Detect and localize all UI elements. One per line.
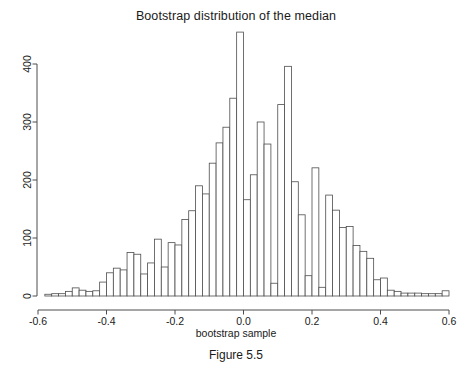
histogram-bar	[339, 228, 346, 296]
histogram-bar	[257, 122, 264, 296]
histogram-bar	[59, 294, 66, 296]
x-tick-label: 0.0	[236, 315, 251, 327]
histogram-bar	[428, 294, 435, 296]
histogram-bar	[72, 288, 79, 296]
histogram-bar	[202, 194, 209, 296]
y-tick-label: 100	[21, 229, 33, 247]
histogram-bar	[326, 195, 333, 296]
histogram-bar	[353, 246, 360, 296]
histogram-bar	[442, 291, 449, 296]
histogram-bar	[271, 283, 278, 296]
x-tick-label: -0.2	[166, 315, 184, 327]
histogram-bar	[52, 294, 59, 296]
histogram-bar	[45, 294, 52, 296]
histogram-bar	[65, 291, 72, 296]
histogram-bar	[305, 276, 312, 296]
histogram-bar	[230, 98, 237, 296]
y-tick-label: 0	[21, 293, 33, 299]
histogram-bar	[312, 168, 319, 296]
histogram-bar	[196, 186, 203, 296]
histogram-bar	[394, 291, 401, 296]
histogram-bar	[189, 211, 196, 296]
histogram-bar	[141, 274, 148, 296]
histogram-bar	[216, 143, 223, 296]
y-tick-label: 400	[21, 55, 33, 73]
histogram-bar	[360, 251, 367, 296]
histogram-bar	[319, 287, 326, 296]
histogram-bar	[244, 200, 251, 296]
histogram-bar	[175, 245, 182, 296]
histogram-bar	[168, 243, 175, 296]
histogram-bar	[86, 291, 93, 296]
histogram-bar	[367, 258, 374, 296]
histogram-bar	[298, 215, 305, 296]
histogram-bar	[237, 32, 244, 296]
histogram-bar	[374, 280, 381, 296]
y-tick-label: 200	[21, 171, 33, 189]
histogram-bar	[333, 210, 340, 296]
histogram-bar	[148, 263, 155, 296]
y-tick-label: 300	[21, 113, 33, 131]
figure-container: Bootstrap distribution of the median -0.…	[0, 0, 472, 371]
histogram-chart: -0.6-0.4-0.20.00.20.40.6 0100200300400	[0, 0, 472, 371]
histogram-bar	[250, 175, 257, 296]
histogram-bar	[134, 254, 141, 296]
histogram-bar	[401, 293, 408, 296]
x-axis-label: bootstrap sample	[0, 327, 472, 339]
histogram-bar	[387, 290, 394, 296]
histogram-bar	[161, 267, 168, 296]
histogram-bar	[209, 163, 216, 296]
x-tick-label: 0.2	[305, 315, 320, 327]
histogram-bar	[422, 294, 429, 296]
histogram-bar	[346, 226, 353, 296]
x-tick-label: -0.6	[29, 315, 47, 327]
x-tick-label: -0.4	[97, 315, 115, 327]
histogram-bar	[415, 293, 422, 296]
y-axis: 0100200300400	[21, 55, 37, 299]
x-tick-label: 0.4	[373, 315, 388, 327]
histogram-bar	[113, 268, 120, 296]
histogram-bar	[107, 273, 114, 296]
histogram-bar	[127, 253, 134, 297]
histogram-bar	[435, 294, 442, 296]
histogram-bar	[381, 278, 388, 296]
histogram-bar	[264, 144, 271, 296]
histogram-bar	[408, 293, 415, 296]
histogram-bar	[79, 290, 86, 296]
histogram-bar	[120, 270, 127, 296]
histogram-bar	[285, 66, 292, 296]
histogram-bar	[278, 105, 285, 296]
x-tick-label: 0.6	[442, 315, 457, 327]
figure-caption: Figure 5.5	[0, 348, 472, 362]
bars-group	[45, 32, 449, 296]
histogram-bar	[100, 282, 107, 296]
histogram-bar	[154, 239, 161, 296]
x-axis: -0.6-0.4-0.20.00.20.40.6	[29, 310, 456, 327]
histogram-bar	[223, 127, 230, 296]
histogram-bar	[182, 219, 189, 296]
histogram-bar	[93, 291, 100, 296]
histogram-bar	[291, 182, 298, 296]
